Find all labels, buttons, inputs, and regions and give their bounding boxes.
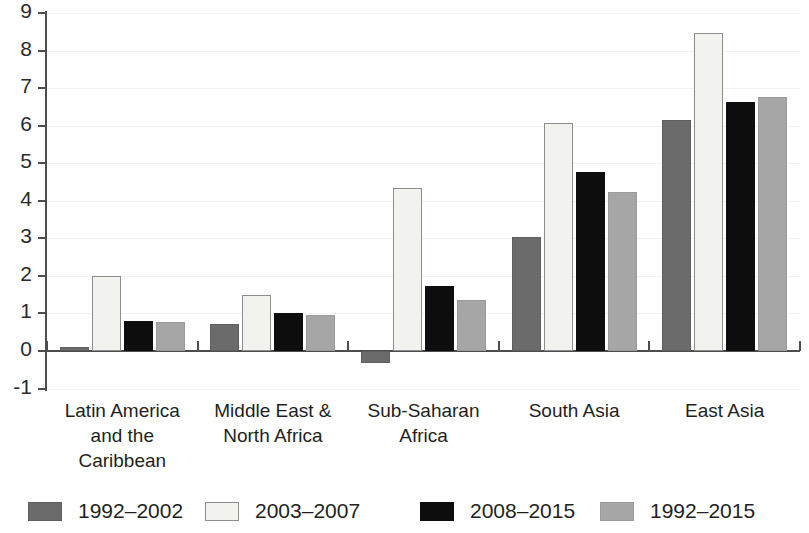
legend-label: 1992–2002 (78, 499, 183, 523)
y-axis-tick-label: 4 (0, 187, 32, 211)
bar (694, 33, 723, 351)
x-axis-tick (799, 341, 801, 351)
y-axis-tick-label: 1 (0, 299, 32, 323)
bar (726, 102, 755, 351)
legend-swatch-black (420, 502, 454, 521)
x-axis-tick (498, 341, 500, 351)
bar (608, 192, 637, 351)
x-axis-category-label-line: Africa (334, 423, 514, 448)
legend-item[interactable]: 2003–2007 (205, 496, 360, 526)
legend-item[interactable]: 1992–2002 (28, 496, 183, 526)
bar-chart: 9876543210-1 Latin Americaand theCaribbe… (0, 0, 809, 533)
y-axis-tick-label: 5 (0, 149, 32, 173)
chart-legend: 1992–20022003–20072008–20151992–2015 (0, 496, 809, 533)
y-axis-tick (38, 312, 47, 314)
x-axis-category-label-line: Caribbean (32, 448, 212, 473)
legend-label: 2003–2007 (255, 499, 360, 523)
bar (576, 172, 605, 351)
bar (124, 321, 153, 351)
y-axis-tick-label: 6 (0, 112, 32, 136)
y-axis-tick-label: -1 (0, 375, 32, 399)
bar (544, 123, 573, 351)
legend-swatch-dark-gray (28, 502, 62, 521)
x-axis-tick (46, 341, 48, 351)
bar (242, 295, 271, 351)
bar (306, 315, 335, 351)
legend-item[interactable]: 2008–2015 (420, 496, 575, 526)
y-axis-tick (38, 50, 47, 52)
y-axis-tick-label: 3 (0, 224, 32, 248)
legend-label: 1992–2015 (650, 499, 755, 523)
legend-label: 2008–2015 (470, 499, 575, 523)
bar (662, 120, 691, 351)
gridline (47, 389, 800, 390)
bar (457, 300, 486, 351)
bar (274, 313, 303, 351)
y-axis-tick-label: 8 (0, 37, 32, 61)
bar (393, 188, 422, 351)
y-axis-tick-label: 9 (0, 0, 32, 23)
y-axis-tick (38, 12, 47, 14)
y-axis-tick (38, 200, 47, 202)
y-axis-tick (38, 237, 47, 239)
y-axis-tick (38, 87, 47, 89)
y-axis-tick (38, 125, 47, 127)
gridline (47, 13, 800, 14)
bar (210, 324, 239, 351)
bar (92, 276, 121, 351)
x-axis-category-label-line: East Asia (635, 398, 809, 423)
x-axis-tick (197, 341, 199, 351)
bar (60, 347, 89, 351)
x-axis-category-label: East Asia (635, 398, 809, 423)
y-axis-tick-label: 2 (0, 262, 32, 286)
bar (425, 286, 454, 351)
y-axis-tick (38, 162, 47, 164)
gridline (47, 88, 800, 89)
bar (512, 237, 541, 351)
gridline (47, 51, 800, 52)
legend-swatch-medium-gray (600, 502, 634, 521)
y-axis-tick-label: 0 (0, 337, 32, 361)
y-axis-tick (38, 275, 47, 277)
bar (361, 351, 390, 363)
bar (758, 97, 787, 351)
legend-item[interactable]: 1992–2015 (600, 496, 755, 526)
x-axis-tick (347, 341, 349, 351)
y-axis-tick-label: 7 (0, 74, 32, 98)
legend-swatch-white (205, 502, 239, 521)
bar (156, 322, 185, 351)
x-axis-tick (648, 341, 650, 351)
y-axis-tick (38, 388, 47, 390)
